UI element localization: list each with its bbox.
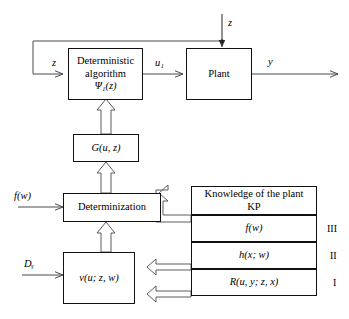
label-dy-input: Dᵧ xyxy=(24,259,34,270)
arrow-determinization-to-g xyxy=(97,162,115,193)
level-two-label: II xyxy=(330,250,337,261)
arrow-v-to-determinization xyxy=(97,222,115,252)
knowledge-line2: KP xyxy=(205,201,304,213)
level-three-label: III xyxy=(327,223,337,234)
deterministic-algorithm-box[interactable]: Deterministic algorithm Ψ₁(z) xyxy=(68,48,143,100)
kp-row-f-label: f(w) xyxy=(244,222,265,234)
g-function-label: G(u, z) xyxy=(89,142,122,154)
knowledge-of-plant-box[interactable]: Knowledge of the plant KP xyxy=(191,186,317,215)
plant-label: Plant xyxy=(206,68,232,80)
diagram-canvas: Deterministic algorithm Ψ₁(z) Plant G(u,… xyxy=(0,0,349,319)
knowledge-line1: Knowledge of the plant xyxy=(205,188,304,200)
arrow-r-row-to-v xyxy=(147,286,191,302)
determinization-label: Determinization xyxy=(76,201,148,213)
determinization-box[interactable]: Determinization xyxy=(63,193,161,222)
label-fw-input: f(w) xyxy=(14,191,31,202)
label-z-feedback: z xyxy=(52,58,56,69)
junction-dot xyxy=(220,39,223,42)
kp-row-h-label: h(x; w) xyxy=(237,249,271,261)
label-z-disturbance: z xyxy=(228,18,232,29)
deterministic-algorithm-line2: algorithm xyxy=(77,68,134,80)
kp-row-h[interactable]: h(x; w) xyxy=(191,242,317,269)
arrow-fw-row-to-determinization xyxy=(156,185,191,222)
arrow-h-row-to-v xyxy=(147,259,191,275)
label-y: y xyxy=(268,57,273,68)
kp-row-r-label: R(u, y; z, x) xyxy=(228,276,281,288)
v-function-label: v(u; z, w) xyxy=(77,272,120,284)
plant-box[interactable]: Plant xyxy=(186,48,252,100)
deterministic-algorithm-formula: Ψ₁(z) xyxy=(77,80,134,92)
g-function-box[interactable]: G(u, z) xyxy=(73,134,139,162)
kp-row-r[interactable]: R(u, y; z, x) xyxy=(191,269,317,296)
kp-row-f[interactable]: f(w) xyxy=(191,215,317,242)
level-one-label: I xyxy=(333,277,336,288)
deterministic-algorithm-line1: Deterministic xyxy=(77,55,134,67)
label-u1: u₁ xyxy=(155,58,164,69)
arrow-g-to-deterministic xyxy=(97,99,115,134)
v-function-box[interactable]: v(u; z, w) xyxy=(63,252,135,304)
